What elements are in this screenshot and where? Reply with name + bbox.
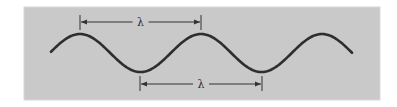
- lambda-label: λ: [137, 16, 144, 29]
- lambda-label: λ: [198, 78, 205, 91]
- wavelength-diagram: λ λ: [0, 0, 397, 107]
